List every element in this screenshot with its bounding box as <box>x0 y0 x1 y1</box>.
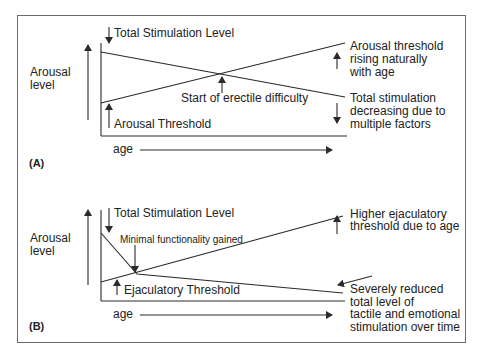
panel-b-xlabel: age <box>113 308 133 321</box>
panel-b-threshold-label: Ejaculatory Threshold <box>124 284 240 297</box>
panel-b-ylabel-2: level <box>30 245 55 258</box>
panel-a-threshold-label: Arousal Threshold <box>114 118 211 131</box>
panel-b-crossing-label: Minimal functionality gained <box>120 234 243 245</box>
panel-a-xlabel: age <box>113 143 133 156</box>
panel-b-right-bottom-4: stimulation over time <box>350 321 460 334</box>
panel-a-crossing-label: Start of erectile difficulty <box>181 92 308 105</box>
panel-a-ylabel-2: level <box>30 79 55 92</box>
panel-b-threshold-line <box>101 216 343 282</box>
panel-a-right-top-3: with age <box>350 66 395 79</box>
panel-a-id: (A) <box>29 157 44 170</box>
panel-b-right-top-2: threshold due to age <box>350 220 459 233</box>
panel-b-stim-label: Total Stimulation Level <box>114 207 234 220</box>
panel-a-stim-label: Total Stimulation Level <box>114 27 234 40</box>
panel-a-right-bottom-3: multiple factors <box>350 118 431 131</box>
panel-b-id: (B) <box>29 320 44 333</box>
